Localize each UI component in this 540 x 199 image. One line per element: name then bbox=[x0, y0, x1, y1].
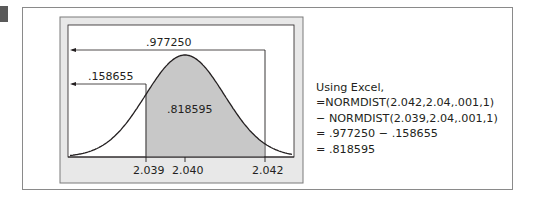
excel-line-5: = .818595 bbox=[316, 142, 498, 157]
tick-label-2.042: 2.042 bbox=[252, 164, 284, 177]
excel-line-4: = .977250 − .158655 bbox=[316, 126, 498, 141]
excel-line-2: =NORMDIST(2.042,2.04,.001,1) bbox=[316, 95, 498, 110]
excel-line-3: − NORMDIST(2.039,2.04,.001,1) bbox=[316, 111, 498, 126]
tick-label-2.039: 2.039 bbox=[133, 164, 165, 177]
label-lower-cdf: .158655 bbox=[88, 70, 134, 83]
excel-calculation-note: Using Excel, =NORMDIST(2.042,2.04,.001,1… bbox=[316, 80, 498, 157]
label-upper-cdf: .977250 bbox=[146, 36, 192, 49]
excel-line-1: Using Excel, bbox=[316, 80, 498, 95]
tick-label-2.040: 2.040 bbox=[172, 164, 204, 177]
label-shaded-area: .818595 bbox=[167, 103, 213, 116]
